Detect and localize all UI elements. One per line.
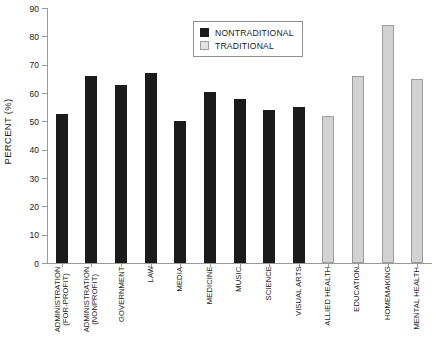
x-axis-label-line: SCIENCE bbox=[265, 266, 273, 300]
legend-item: NONTRADITIONAL bbox=[200, 26, 294, 39]
bar bbox=[174, 121, 186, 263]
y-axis-title: PERCENT (%) bbox=[0, 0, 16, 263]
x-axis-label-line: MEDICINE bbox=[206, 266, 214, 304]
y-axis-title-text: PERCENT (%) bbox=[3, 99, 14, 165]
y-axis-tick-label: 20 bbox=[30, 203, 39, 212]
bar bbox=[411, 79, 423, 263]
x-axis-labels: ADMINISTRATION(FOR-PROFIT)ADMINISTRATION… bbox=[47, 266, 432, 357]
legend-swatch-icon bbox=[200, 41, 209, 50]
x-axis-label-line: (FOR-PROFIT) bbox=[62, 266, 70, 332]
bar bbox=[382, 25, 394, 263]
x-axis-label: MENTAL HEALTH bbox=[397, 266, 436, 356]
bar bbox=[204, 92, 216, 263]
x-axis-label-line: GOVERNMENT bbox=[117, 266, 125, 321]
x-axis-label-line: HOMEMAKING bbox=[383, 266, 391, 320]
x-axis-label-line: MEDIA bbox=[176, 266, 184, 291]
bar bbox=[263, 110, 275, 263]
y-axis-tick-label: 0 bbox=[34, 259, 39, 268]
y-axis-tick-label: 40 bbox=[30, 146, 39, 155]
y-axis-tick-label: 60 bbox=[30, 89, 39, 98]
bar bbox=[234, 99, 246, 263]
bar bbox=[85, 76, 97, 263]
x-axis-label-line: ALLIED HEALTH bbox=[324, 266, 332, 325]
y-axis-tick-label: 10 bbox=[30, 231, 39, 240]
x-axis-label-line: VISUAL ARTS bbox=[294, 266, 302, 316]
legend-swatch-icon bbox=[200, 28, 209, 37]
x-axis-label-line: (NONPROFIT) bbox=[91, 266, 99, 332]
bar bbox=[145, 73, 157, 263]
legend-item: TRADITIONAL bbox=[200, 39, 294, 52]
bar bbox=[115, 85, 127, 264]
x-axis-label-line: LAW bbox=[147, 266, 155, 282]
y-axis-tick-label: 50 bbox=[30, 118, 39, 127]
y-axis-tick-label: 30 bbox=[30, 174, 39, 183]
x-axis-label-line: MUSIC bbox=[235, 266, 243, 291]
chart-legend: NONTRADITIONALTRADITIONAL bbox=[193, 21, 303, 57]
y-axis-tick-label: 70 bbox=[30, 61, 39, 70]
bar-chart: PERCENT (%) 0102030405060708090 ADMINIST… bbox=[0, 0, 436, 357]
y-axis-tick: 0 bbox=[42, 263, 47, 264]
bar bbox=[322, 116, 334, 263]
bar bbox=[293, 107, 305, 263]
bar bbox=[56, 114, 68, 263]
x-axis-label-line: EDUCATION bbox=[354, 266, 362, 311]
y-axis-tick-label: 90 bbox=[30, 4, 39, 13]
y-axis-tick-label: 80 bbox=[30, 33, 39, 42]
legend-label: NONTRADITIONAL bbox=[215, 28, 294, 38]
legend-label: TRADITIONAL bbox=[215, 41, 274, 51]
x-axis-label-line: MENTAL HEALTH bbox=[413, 266, 421, 329]
bar bbox=[352, 76, 364, 263]
